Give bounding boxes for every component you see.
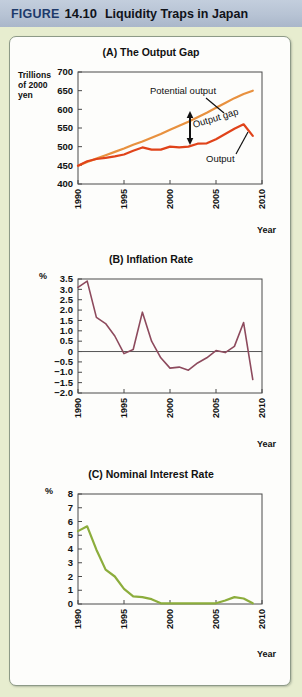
figure-container: FIGURE 14.10 Liquidity Traps in Japan (A… xyxy=(0,0,302,697)
inflation-rate-ytick-label: 1.0 xyxy=(60,325,73,336)
output-gap-arrow-head-up xyxy=(187,111,194,118)
nominal-interest-rate-ytick-label: 5 xyxy=(68,529,74,540)
nominal-interest-rate-ytick-label: 3 xyxy=(68,557,73,568)
inflation-rate-ytick-label: 3.0 xyxy=(60,284,73,295)
output-gap-ytick-label: 500 xyxy=(57,141,73,152)
nominal-interest-rate-ytick-label: 8 xyxy=(68,488,73,499)
annotation-output-leader xyxy=(236,132,248,154)
inflation-rate-ytick-label: 1.5 xyxy=(60,315,74,326)
inflation-rate-ytick-label: 0.5 xyxy=(60,335,74,346)
chart-b-svg: 3.53.02.52.01.51.00.50−0.5−1.0−1.5−2.019… xyxy=(10,265,291,455)
nominal-interest-rate-ytick-label: 6 xyxy=(68,516,73,527)
inflation-rate-ytick-label: −2.0 xyxy=(54,387,73,398)
annotation-potential-output: Potential output xyxy=(150,85,216,96)
inflation-rate-ytick-label: 2.0 xyxy=(60,304,73,315)
chart-c-xlabel: Year xyxy=(257,649,276,659)
nominal-interest-rate-ytick-label: 0 xyxy=(68,598,73,609)
figure-title-label: Liquidity Traps in Japan xyxy=(105,7,248,21)
chart-nominal-interest-rate: (C) Nominal Interest Rate % 012345678199… xyxy=(10,462,291,677)
inflation-rate-ytick-label: −0.5 xyxy=(54,356,73,367)
chart-a-title: (A) The Output Gap xyxy=(10,37,291,58)
figure-kicker-label: FIGURE xyxy=(11,7,59,21)
chart-a-xlabel: Year xyxy=(257,225,276,235)
inflation-rate-ytick-label: 2.5 xyxy=(60,294,74,305)
chart-a-svg: 4004505005506006507001990199520002005201… xyxy=(10,58,291,243)
inflation-rate-plot-frame xyxy=(78,279,262,393)
figure-header-band: FIGURE 14.10 Liquidity Traps in Japan xyxy=(0,0,302,27)
inflation-rate-ytick-label: −1.0 xyxy=(54,366,73,377)
output-gap-ytick-label: 650 xyxy=(57,85,73,96)
nominal-interest-rate-ytick-label: 2 xyxy=(68,571,73,582)
nominal-interest-rate-series-nominal-interest-rate xyxy=(78,526,253,603)
inflation-rate-ytick-label: 3.5 xyxy=(60,273,74,284)
inflation-rate-xtick-label: 2005 xyxy=(211,398,221,418)
inflation-rate-ytick-label: −1.5 xyxy=(54,377,73,388)
output-gap-ytick-label: 450 xyxy=(57,160,73,171)
output-gap-ytick-label: 700 xyxy=(57,66,73,77)
chart-c-svg: 01234567819901995200020052010 xyxy=(10,480,291,665)
inflation-rate-series-inflation-rate xyxy=(78,281,253,379)
nominal-interest-rate-ytick-label: 7 xyxy=(68,502,73,513)
inflation-rate-xtick-label: 1995 xyxy=(119,398,129,418)
annotation-output: Output xyxy=(206,153,235,164)
inflation-rate-ytick-label: 0 xyxy=(68,346,73,357)
output-gap-ytick-label: 600 xyxy=(57,104,73,115)
chart-c-title: (C) Nominal Interest Rate xyxy=(10,462,291,480)
nominal-interest-rate-xtick-label: 2000 xyxy=(165,609,175,629)
nominal-interest-rate-xtick-label: 1990 xyxy=(73,609,83,629)
nominal-interest-rate-plot-frame xyxy=(78,494,262,604)
output-gap-arrow-head-down xyxy=(187,138,194,145)
chart-a-plot-wrap: 4004505005506006507001990199520002005201… xyxy=(10,58,291,243)
output-gap-xtick-label: 1995 xyxy=(119,189,129,209)
inflation-rate-xtick-label: 2000 xyxy=(165,398,175,418)
output-gap-ytick-label: 400 xyxy=(57,178,73,189)
output-gap-xtick-label: 2000 xyxy=(165,189,175,209)
inflation-rate-xtick-label: 2010 xyxy=(257,398,267,418)
chart-b-xlabel: Year xyxy=(257,439,276,449)
nominal-interest-rate-ytick-label: 4 xyxy=(68,543,74,554)
chart-inflation-rate: (B) Inflation Rate % 3.53.02.52.01.51.00… xyxy=(10,247,291,462)
chart-c-plot-wrap: 01234567819901995200020052010 xyxy=(10,480,291,665)
nominal-interest-rate-xtick-label: 1995 xyxy=(119,609,129,629)
nominal-interest-rate-xtick-label: 2010 xyxy=(257,609,267,629)
output-gap-xtick-label: 1990 xyxy=(73,189,83,209)
output-gap-xtick-label: 2010 xyxy=(257,189,267,209)
nominal-interest-rate-xtick-label: 2005 xyxy=(211,609,221,629)
chart-b-plot-wrap: 3.53.02.52.01.51.00.50−0.5−1.0−1.5−2.019… xyxy=(10,265,291,455)
figure-panel: (A) The Output Gap Trillions of 2000 yen… xyxy=(9,36,291,686)
chart-output-gap: (A) The Output Gap Trillions of 2000 yen… xyxy=(10,37,291,247)
nominal-interest-rate-ytick-label: 1 xyxy=(68,584,74,595)
inflation-rate-xtick-label: 1990 xyxy=(73,398,83,418)
output-gap-ytick-label: 550 xyxy=(57,122,73,133)
chart-b-title: (B) Inflation Rate xyxy=(10,247,291,265)
figure-number-label: 14.10 xyxy=(64,6,97,21)
output-gap-xtick-label: 2005 xyxy=(211,189,221,209)
